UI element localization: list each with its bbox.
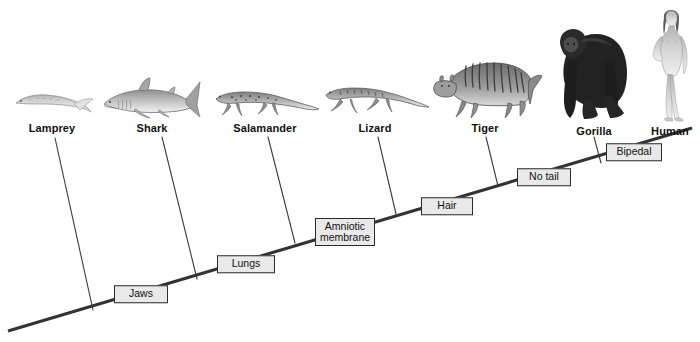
taxon-label-lamprey: Lamprey [29, 122, 76, 134]
organism-gorilla [560, 29, 627, 119]
organism-human [653, 10, 687, 121]
branch-line-shark [162, 137, 197, 279]
organism-lizard [326, 88, 429, 113]
trait-label-line: Jaws [120, 288, 162, 300]
trait-box-hair: Hair [421, 197, 473, 215]
trait-label-line: No tail [523, 171, 565, 183]
organism-tiger [434, 63, 542, 118]
taxon-label-tiger: Tiger [471, 122, 498, 134]
trait-box-no-tail: No tail [517, 168, 571, 186]
taxon-label-lizard: Lizard [359, 122, 392, 134]
trait-box-bipedal: Bipedal [606, 143, 662, 161]
trait-box-amniotic-membrane: Amnioticmembrane [315, 218, 375, 246]
organism-lamprey [16, 95, 93, 112]
cladogram-canvas: LampreySharkSalamanderLizardTigerGorilla… [0, 0, 700, 342]
taxon-label-shark: Shark [136, 122, 167, 134]
branch-line-gorilla [594, 137, 601, 163]
taxon-label-salamander: Salamander [233, 122, 296, 134]
branch-line-lamprey [55, 138, 93, 310]
organism-salamander [216, 92, 319, 116]
trait-label-line: Hair [427, 200, 467, 212]
organism-shark [104, 78, 200, 118]
taxon-label-human: Human [651, 125, 689, 137]
branch-line-salamander [268, 137, 295, 243]
branch-line-tiger [486, 137, 498, 186]
cladogram-svg [0, 0, 700, 342]
trait-box-lungs: Lungs [217, 255, 275, 273]
trait-label-line: Bipedal [612, 146, 656, 158]
trait-label-line: Lungs [223, 258, 269, 270]
trait-box-jaws: Jaws [114, 285, 168, 303]
taxon-label-gorilla: Gorilla [576, 125, 612, 137]
branch-line-lizard [378, 137, 396, 214]
trait-label-line: membrane [319, 232, 371, 243]
